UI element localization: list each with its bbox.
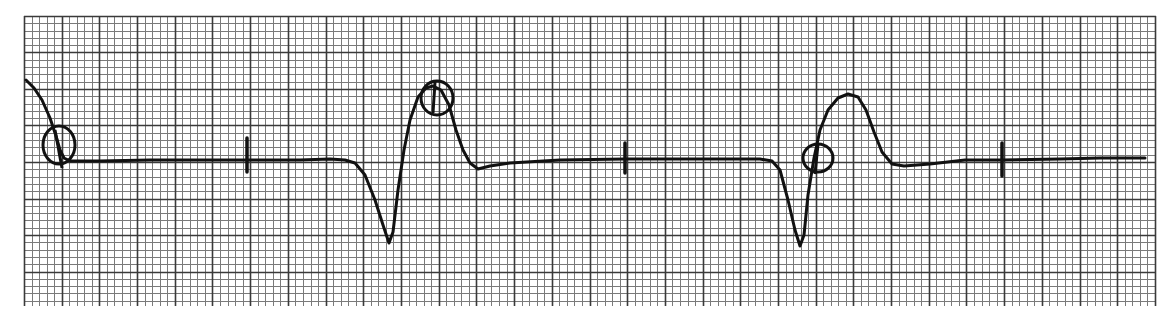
circle-slash-mark <box>433 82 435 113</box>
ecg-rhythm-strip <box>0 0 1172 321</box>
